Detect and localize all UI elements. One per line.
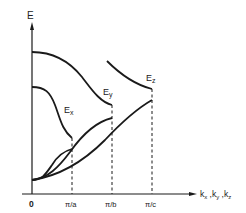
tick-label-zero: 0	[29, 199, 34, 209]
x-axis-arrow-icon	[189, 192, 197, 196]
label-ez: Ez	[146, 73, 156, 84]
tick-label-pi-c: π/c	[145, 200, 156, 209]
x-axis-label: kx ,ky ,kz	[200, 189, 231, 200]
label-ey: Ey	[103, 87, 113, 99]
y-axis-label: E	[27, 10, 34, 21]
curve-ey-lower	[32, 118, 112, 180]
label-ex: Ex	[64, 105, 74, 116]
tick-label-pi-a: π/a	[65, 200, 77, 209]
y-axis-arrow-icon	[30, 22, 34, 30]
dispersion-diagram: E kx ,ky ,kz 0 π/a π/b π/c Ex Ey Ez	[0, 0, 246, 213]
tick-label-pi-b: π/b	[105, 200, 116, 209]
curve-ey-upper	[32, 52, 112, 105]
svg-text:kx ,ky ,kz: kx ,ky ,kz	[200, 189, 231, 200]
